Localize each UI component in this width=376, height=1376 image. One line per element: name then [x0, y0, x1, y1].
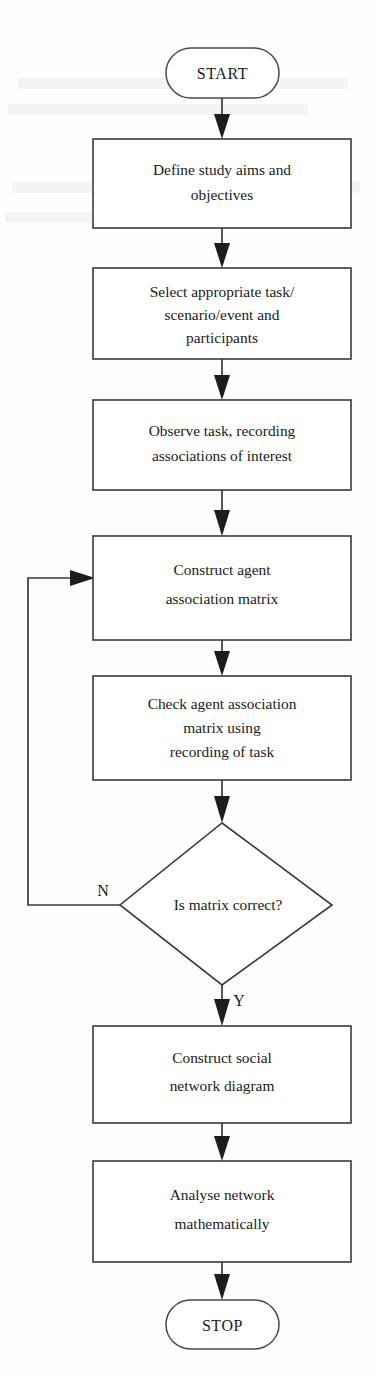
- edge-check-matrix-to-decision: [214, 780, 230, 823]
- node-select-task-line1: Select appropriate task/: [150, 283, 295, 300]
- node-analyse-network-line2: mathematically: [175, 1215, 270, 1232]
- node-construct-agent-matrix-line1: Construct agent: [173, 561, 271, 578]
- flowchart-canvas: START Define study aims and objectives S…: [0, 0, 376, 1376]
- node-analyse-network-line1: Analyse network: [170, 1186, 275, 1203]
- edge-observe-to-construct-matrix: [214, 490, 230, 536]
- node-observe-task[interactable]: Observe task, recording associations of …: [93, 400, 351, 490]
- edge-label-no: N: [97, 882, 109, 899]
- node-select-task-line2: scenario/event and: [165, 306, 280, 323]
- node-select-task-line3: participants: [186, 329, 258, 346]
- node-check-agent-matrix-line3: recording of task: [170, 743, 275, 760]
- edge-decision-yes: [214, 985, 230, 1026]
- node-select-task[interactable]: Select appropriate task/ scenario/event …: [93, 268, 351, 359]
- node-construct-agent-matrix-line2: association matrix: [166, 590, 279, 607]
- edge-start-to-aims: [214, 98, 230, 139]
- edge-label-yes: Y: [233, 992, 245, 1009]
- node-construct-social-network-line2: network diagram: [170, 1077, 275, 1094]
- node-construct-social-network[interactable]: Construct social network diagram: [93, 1026, 351, 1123]
- node-construct-social-network-line1: Construct social: [172, 1049, 272, 1066]
- node-check-agent-matrix-line2: matrix using: [183, 719, 261, 736]
- node-observe-task-line2: associations of interest: [152, 447, 293, 464]
- node-define-study-aims-line2: objectives: [191, 186, 253, 203]
- node-check-agent-matrix[interactable]: Check agent association matrix using rec…: [93, 676, 351, 780]
- node-observe-task-line1: Observe task, recording: [149, 422, 296, 439]
- node-decision-is-matrix-correct[interactable]: Is matrix correct?: [120, 823, 332, 985]
- node-start[interactable]: START: [166, 48, 279, 98]
- node-start-label: START: [197, 65, 248, 82]
- node-check-agent-matrix-line1: Check agent association: [148, 695, 297, 712]
- node-define-study-aims[interactable]: Define study aims and objectives: [93, 139, 351, 228]
- edge-analyse-to-stop: [214, 1262, 230, 1300]
- node-construct-agent-matrix[interactable]: Construct agent association matrix: [93, 536, 351, 640]
- node-decision-label: Is matrix correct?: [174, 896, 283, 913]
- node-define-study-aims-line1: Define study aims and: [153, 161, 291, 178]
- node-analyse-network[interactable]: Analyse network mathematically: [93, 1161, 351, 1262]
- edge-construct-matrix-to-check-matrix: [214, 640, 230, 676]
- edge-select-to-observe: [214, 359, 230, 400]
- node-stop[interactable]: STOP: [166, 1300, 279, 1349]
- edge-aims-to-select: [214, 228, 230, 268]
- flowchart-diagram: START Define study aims and objectives S…: [0, 0, 376, 1376]
- edge-construct-network-to-analyse: [214, 1123, 230, 1161]
- node-stop-label: STOP: [202, 1317, 243, 1334]
